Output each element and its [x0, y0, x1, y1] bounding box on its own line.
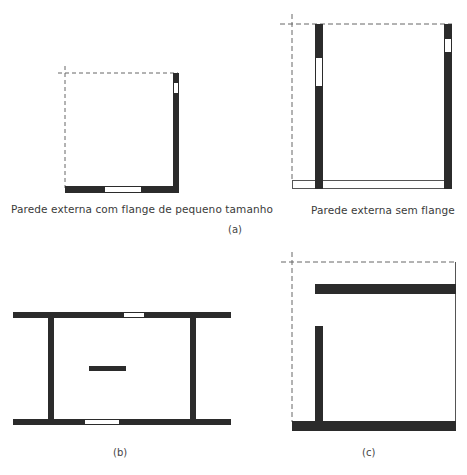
- wall-left: [315, 24, 323, 189]
- window-top: [124, 313, 144, 317]
- window-bottom: [105, 187, 141, 192]
- label-a: (a): [228, 224, 242, 235]
- wall-bottom: [292, 421, 456, 431]
- diagram-a-right: [280, 14, 452, 189]
- window-right: [174, 83, 178, 93]
- interior-wall-segment: [89, 366, 126, 371]
- wall-top: [315, 284, 456, 294]
- wall-top: [13, 312, 231, 318]
- label-c: (c): [362, 447, 375, 458]
- diagram-b: [13, 312, 231, 425]
- diagram-c: [281, 252, 456, 431]
- label-b: (b): [113, 447, 127, 458]
- caption-small-flange: Parede externa com flange de pequeno tam…: [11, 203, 273, 215]
- floor-plan-diagrams: [0, 0, 467, 475]
- wall-bottom: [13, 419, 231, 425]
- window-bottom: [85, 420, 119, 424]
- caption-no-flange: Parede externa sem flange: [311, 204, 455, 216]
- diagram-a-left: [58, 66, 179, 193]
- wall-left: [48, 316, 54, 422]
- wall-vertical: [315, 326, 323, 426]
- wall-right: [190, 316, 196, 422]
- window-left: [316, 58, 322, 86]
- window-right: [445, 39, 451, 52]
